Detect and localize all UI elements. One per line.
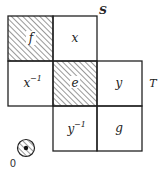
svg-text:−1: −1 (30, 74, 42, 83)
label-y-inverse: y −1 (67, 120, 86, 136)
label-T: T (149, 77, 158, 90)
label-g: g (115, 121, 123, 135)
label-x: x (72, 31, 79, 45)
label-origin: 0 (10, 158, 16, 169)
label-e: e (71, 76, 78, 90)
svg-text:−1: −1 (74, 120, 86, 129)
origin-marker-icon (18, 140, 35, 157)
label-y: y (115, 76, 123, 90)
label-S: S (99, 4, 107, 17)
diagram-canvas: f x x −1 e y y −1 g S T 0 (0, 0, 166, 171)
cell-x-inverse (8, 61, 53, 106)
label-x-inverse: x −1 (24, 74, 42, 90)
